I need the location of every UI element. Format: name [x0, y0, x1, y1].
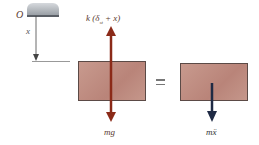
inertia-label: mẍ [206, 127, 217, 137]
spring-force-arrow-icon [105, 26, 117, 86]
inertia-arrow-icon [206, 83, 218, 123]
position-label: x [26, 26, 30, 36]
position-arrow-icon [30, 16, 42, 62]
fixed-support [27, 3, 59, 17]
spring-force-text: k (δ [86, 13, 99, 23]
spring-force-label: k (δst + x) [86, 13, 120, 25]
weight-label: mg [104, 127, 115, 137]
equals-sign [156, 79, 165, 85]
weight-arrow-icon [105, 82, 117, 122]
spring-force-tail: + x) [103, 13, 121, 23]
origin-label: O [16, 9, 23, 20]
reference-line [32, 61, 70, 62]
